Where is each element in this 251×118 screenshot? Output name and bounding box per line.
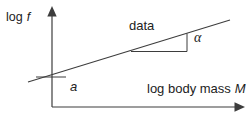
slope-angle-label: α bbox=[194, 31, 201, 45]
x-axis-arrowhead bbox=[235, 102, 246, 111]
data-line-label: data bbox=[129, 19, 154, 32]
log-log-scaling-diagram: logf data α a log body massM bbox=[0, 0, 251, 118]
x-axis-label-symbol: M bbox=[235, 81, 246, 96]
diagram-canvas bbox=[0, 0, 251, 118]
y-axis-label: logf bbox=[6, 11, 30, 24]
y-axis-label-symbol: f bbox=[27, 10, 30, 24]
x-axis-label: log body massM bbox=[147, 82, 246, 95]
x-axis-label-prefix: log body mass bbox=[147, 81, 231, 96]
y-axis-arrowhead bbox=[47, 6, 56, 17]
y-axis-label-prefix: log bbox=[6, 10, 23, 24]
intercept-label: a bbox=[70, 80, 77, 93]
